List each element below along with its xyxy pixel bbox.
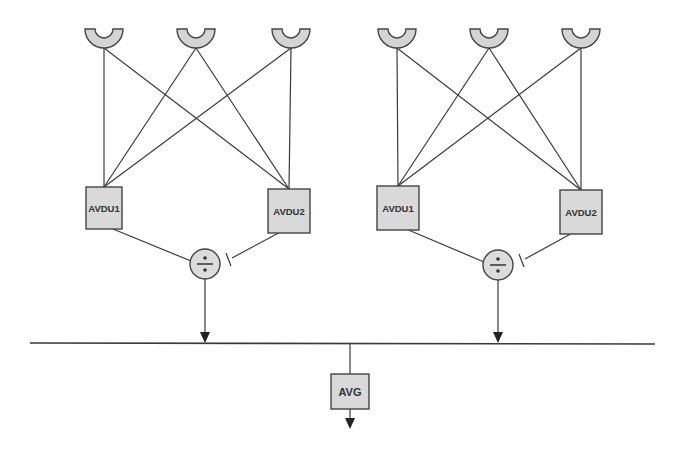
sensor-wire <box>289 48 291 189</box>
sensor-wire <box>398 48 489 186</box>
sensor-wire <box>398 48 581 186</box>
unit-to-divider-wire <box>409 230 485 262</box>
sensor-wire <box>397 48 398 186</box>
unit-to-divider-wire <box>525 234 571 259</box>
avg-box <box>331 374 369 409</box>
right-avdu1-box <box>377 186 419 230</box>
sensor-wire <box>104 48 196 187</box>
sensor-left-1-icon <box>85 29 123 48</box>
right-avdu2-box <box>560 190 602 234</box>
unit-to-divider-wire <box>113 229 191 261</box>
summing-bus <box>30 343 655 344</box>
diagram-canvas <box>0 0 680 454</box>
average-node <box>331 343 369 429</box>
sensor-array <box>85 29 600 48</box>
sensor-right-1-icon <box>378 29 416 48</box>
bus-line <box>30 343 655 344</box>
sensor-left-3-icon <box>272 29 310 48</box>
arrow-down-icon <box>345 418 355 429</box>
sensor-left-2-icon <box>177 29 215 48</box>
arrow-down-icon <box>200 332 210 343</box>
unit-to-divider-wire <box>232 233 279 258</box>
sensor-wire <box>196 48 289 189</box>
sensor-right-2-icon <box>470 29 508 48</box>
break-mark <box>226 253 231 266</box>
arrow-down-icon <box>493 332 503 343</box>
sensor-wire <box>489 48 581 190</box>
break-mark <box>519 254 524 267</box>
sensor-right-3-icon <box>562 29 600 48</box>
left-avdu2-box <box>268 189 310 233</box>
avdu-units <box>86 186 602 234</box>
connection-wires <box>104 48 581 343</box>
left-avdu1-box <box>86 187 122 229</box>
